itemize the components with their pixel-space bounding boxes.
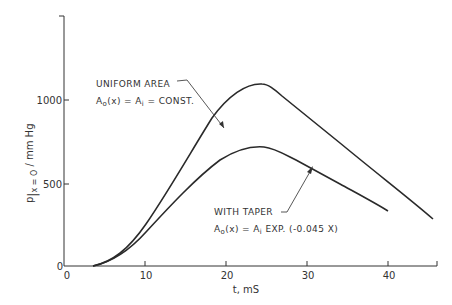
y-axis-title-sub: x = O [30,170,39,193]
uniform-area-label: UNIFORM AREA [96,79,171,89]
x-tick-label-10: 10 [140,270,153,281]
with-taper-formula: Ao(x) = Ai EXP. (-0.045 X) [214,224,338,236]
y-tick-label-1000: 1000 [37,95,62,106]
x-tick-label-40: 40 [383,270,396,281]
with-taper-label: WITH TAPER [214,207,273,217]
x-tick-label-20: 20 [221,270,234,281]
y-tick-label-0: 0 [57,261,63,272]
taper-leader-line [281,170,311,212]
with-taper-annotation: WITH TAPER Ao(x) = Ai EXP. (-0.045 X) [214,207,338,236]
x-tick-label-30: 30 [302,270,315,281]
uniform-area-formula: Ao(x) = Ai = CONST. [96,96,194,108]
x-tick-label-0: 0 [64,270,70,281]
y-axis-title-text: p|x = O / mm Hg [24,124,40,204]
uniform-f-end: = CONST. [144,96,194,106]
tick-labels: 0 500 1000 0 10 20 30 40 [37,95,396,281]
uniform-f-mid: (x) = A [107,96,142,106]
uniform-area-annotation: UNIFORM AREA Ao(x) = Ai = CONST. [96,79,194,108]
chart: 0 500 1000 0 10 20 30 40 t, mS p|x = O /… [0,0,452,305]
taper-f-end: EXP. (-0.045 X) [262,224,338,234]
taper-f-mid: (x) = A [225,224,260,234]
x-axis-title: t, mS [233,284,259,295]
y-axis-title: p|x = O / mm Hg [24,124,40,204]
y-axis-title-unit: / mm Hg [24,124,35,170]
y-tick-label-500: 500 [43,179,62,190]
uniform-area-curve [93,84,433,266]
